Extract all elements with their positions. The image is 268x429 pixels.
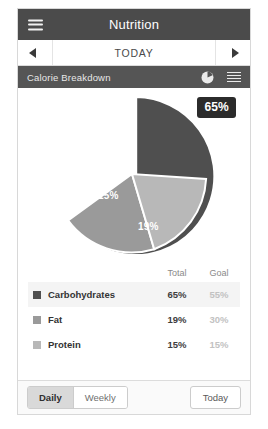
bottom-toolbar: Daily Weekly Today bbox=[18, 380, 250, 414]
row-goal: 55% bbox=[198, 289, 240, 300]
card-header: Calorie Breakdown bbox=[18, 66, 250, 88]
hamburger-menu-icon[interactable] bbox=[28, 19, 43, 30]
row-label: Carbohydrates bbox=[48, 289, 115, 300]
pie-chart[interactable]: 15% 19% bbox=[52, 94, 216, 258]
content-spacer bbox=[18, 357, 250, 380]
date-navigation-bar: TODAY bbox=[18, 40, 250, 66]
row-goal: 30% bbox=[198, 314, 240, 325]
table-header-total: Total bbox=[156, 268, 198, 278]
app-bar: Nutrition bbox=[18, 9, 250, 40]
legend-swatch-protein bbox=[33, 341, 41, 349]
page-title: Nutrition bbox=[18, 17, 250, 32]
triangle-right-icon[interactable] bbox=[232, 48, 239, 58]
pie-chart-icon[interactable] bbox=[201, 71, 214, 84]
row-total: 65% bbox=[156, 289, 198, 300]
phone-frame: Nutrition TODAY Calorie Breakdown bbox=[17, 8, 251, 415]
table-row[interactable]: Carbohydrates 65% 55% bbox=[28, 282, 240, 307]
segment-weekly[interactable]: Weekly bbox=[73, 387, 127, 408]
list-view-icon[interactable] bbox=[227, 72, 241, 83]
row-name-cell: Carbohydrates bbox=[28, 289, 156, 300]
triangle-left-icon[interactable] bbox=[29, 48, 36, 58]
legend-swatch-fat bbox=[33, 316, 41, 324]
today-button[interactable]: Today bbox=[190, 386, 241, 409]
table-row[interactable]: Fat 19% 30% bbox=[28, 307, 240, 332]
segment-daily[interactable]: Daily bbox=[28, 387, 73, 408]
card-title: Calorie Breakdown bbox=[27, 72, 201, 83]
period-segmented-control: Daily Weekly bbox=[27, 386, 128, 409]
row-name-cell: Protein bbox=[28, 339, 156, 350]
row-label: Fat bbox=[48, 314, 62, 325]
nutrition-table: Total Goal Carbohydrates 65% 55% Fat 19%… bbox=[18, 264, 250, 357]
table-row[interactable]: Protein 15% 15% bbox=[28, 332, 240, 357]
table-header-row: Total Goal bbox=[28, 264, 240, 282]
row-total: 15% bbox=[156, 339, 198, 350]
row-label: Protein bbox=[48, 339, 81, 350]
row-goal: 15% bbox=[198, 339, 240, 350]
card-header-actions bbox=[201, 71, 241, 84]
legend-swatch-carbohydrates bbox=[33, 291, 41, 299]
table-header-goal: Goal bbox=[198, 268, 240, 278]
row-name-cell: Fat bbox=[28, 314, 156, 325]
chart-area: 15% 19% 65% bbox=[18, 88, 250, 264]
row-total: 19% bbox=[156, 314, 198, 325]
